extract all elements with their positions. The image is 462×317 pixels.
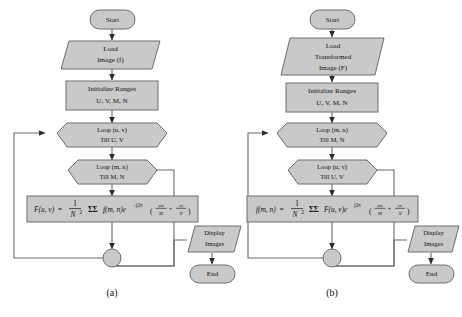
svg-text:−j2π: −j2π [133,202,143,208]
formula-b-inner-args: (u, v) [329,205,345,214]
node-display-images-a-line1: Display [204,229,225,236]
node-start-b-label: Start [326,16,339,24]
node-load-transformed-b-line3: Image (F) [319,64,348,72]
node-load-image-a-line2: Image (f) [97,56,124,64]
node-loop-outer-b-line1: Loop (m, n) [316,126,348,134]
node-display-images-a: Display Images [188,226,241,264]
node-loop-inner-b: Loop (u, v) Till U, V [288,160,377,184]
node-loop-inner-a: Loop (m, n) Till M, N [68,160,157,184]
svg-text:f(m, n) =: f(m, n) = [256,205,284,214]
node-loop-inner-b-line1: Loop (u, v) [317,163,347,171]
formula-b-frac-num: 1 [295,199,299,208]
node-display-images-b-line2: Images [424,240,443,247]
formula-a-lhs-args: (u, v) [39,205,55,214]
svg-text:F(u, v)e: F(u, v)e [323,205,348,214]
node-display-images-b-line1: Display [423,229,444,236]
node-formula-a: F(u, v) = 1 N 2 ΣΣ f(m, n)e −j2π [27,196,198,222]
node-start-a: Start [90,10,135,29]
node-start-a-label: Start [106,16,119,24]
node-loop-inner-b-line2: Till U, V [320,173,344,180]
node-load-image-a: Load Image (f) [61,41,160,69]
node-end-b: End [409,265,454,283]
node-initialize-ranges-b-line1: Initialize Ranges [308,87,356,95]
node-loop-inner-a-line1: Loop (m, n) [96,163,128,171]
formula-b-sum: ΣΣ [309,205,319,214]
formula-a-sum: ΣΣ [88,205,98,214]
panel-b-caption: (b) [326,287,338,299]
node-initialize-ranges-b-line2: U, V, M, N [316,99,347,107]
formula-b-frac-den-exp: 2 [302,209,305,215]
node-loop-inner-a-line2: Till M, N [100,173,125,180]
node-initialize-ranges-a: Initialize Ranges U, V, M, N [66,81,158,110]
formula-b-term1-num: um [377,203,383,208]
svg-text:f(m, n)e: f(m, n)e [103,205,127,214]
node-initialize-ranges-a-line2: U, V, M, N [96,97,127,105]
node-end-a: End [190,265,235,283]
panel-a-caption: (a) [106,287,117,299]
svg-text:j2π: j2π [353,202,361,208]
node-display-images-b: Display Images [408,226,459,264]
node-initialize-ranges-a-line1: Initialize Ranges [88,85,136,93]
node-load-image-a-line1: Load [103,45,118,53]
node-start-b: Start [310,10,355,29]
formula-a-inner-args: (m, n) [105,205,123,214]
node-load-transformed-b-line1: Load [326,42,341,50]
formula-a-term2-num: vn [179,203,184,208]
node-formula-b: f(m, n) = 1 N 2 ΣΣ F(u, v)e j2π ( [247,196,418,222]
node-loop-outer-b: Loop (m, n) Till M, N [277,123,387,147]
formula-a-equals: = [58,205,62,214]
formula-b-equals: = [280,205,284,214]
formula-a-frac-num: 1 [73,199,77,208]
node-load-transformed-b-line2: Transformed [315,53,352,61]
formula-b-lhs-args: (m, n) [258,205,276,214]
formula-a-exp-coeff: j2π [135,202,143,208]
formula-a-term1-num: um [158,203,164,208]
formula-b-exp-coeff: j2π [353,202,361,208]
node-loop-outer-a-line1: Loop (u, v) [97,126,127,134]
node-display-images-a-line2: Images [205,240,224,247]
node-junction-a [103,249,121,267]
node-end-b-label: End [426,270,438,278]
svg-text:F(u, v) =: F(u, v) = [33,205,62,214]
node-loop-outer-a: Loop (u, v) Till U, V [57,123,167,147]
node-end-a-label: End [207,270,219,278]
node-loop-outer-b-line2: Till M, N [320,136,345,143]
formula-b-plus: + [388,206,391,212]
edge-junction-to-display-path [112,240,187,266]
formula-b-term2-num: vn [398,203,403,208]
flowchart-figure: Start Load Image (f) Initialize Ranges U… [0,0,462,317]
edge-junction-to-display-path-b [332,240,407,266]
panel-b: Start Load Transformed Image (F) Initial… [247,10,459,299]
formula-a-frac-den-exp: 2 [80,209,83,215]
node-load-transformed-image-b: Load Transformed Image (F) [281,38,384,75]
formula-a-plus: + [169,206,172,212]
node-initialize-ranges-b: Initialize Ranges U, V, M, N [286,83,378,112]
node-loop-outer-a-line2: Till U, V [100,136,124,143]
node-junction-b [323,249,341,267]
panel-a: Start Load Image (f) Initialize Ranges U… [14,10,241,299]
